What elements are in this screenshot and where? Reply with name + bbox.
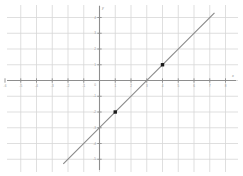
x-tick-label: -3 [51,84,54,88]
coordinate-graph: -6-5-4-3-2-112345678 -5-4-3-2-11234 0 x … [0,0,243,176]
y-tick-label: 1 [94,63,96,67]
y-tick-label: -1 [93,94,96,98]
x-tick-label: 1 [114,84,116,88]
y-tick-label: 3 [94,31,96,35]
x-tick-label: 3 [146,84,148,88]
x-tick-label: -6 [4,84,7,88]
x-tick-label: -5 [19,84,22,88]
y-tick-label: 2 [94,47,96,51]
x-axis-label: x [231,74,234,78]
data-point-marker [161,63,164,66]
origin-label: 0 [94,83,96,87]
graph-canvas: -6-5-4-3-2-112345678 -5-4-3-2-11234 0 x … [0,0,243,176]
y-tick-label: -3 [93,126,96,130]
x-axis-tick-labels: -6-5-4-3-2-112345678 [4,84,227,88]
x-tick-label: -2 [67,84,70,88]
x-tick-label: 4 [162,84,164,88]
y-tick-label: -2 [93,110,96,114]
x-tick-label: 5 [177,84,179,88]
y-tick-label: -4 [93,142,96,146]
x-tick-label: 7 [209,84,211,88]
x-tick-label: 8 [225,84,227,88]
y-tick-label: -5 [93,157,96,161]
data-point-marker [114,110,117,113]
y-tick-label: 4 [94,16,96,20]
x-tick-label: 2 [130,84,132,88]
x-tick-label: -4 [35,84,38,88]
x-tick-label: 6 [193,84,195,88]
x-tick-label: -1 [82,84,85,88]
y-axis-label: y [101,6,104,10]
